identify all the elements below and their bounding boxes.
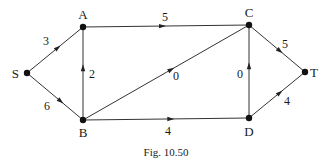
edge-b-d bbox=[83, 118, 249, 120]
edge-weight-a-c: 5 bbox=[162, 10, 168, 24]
node-d bbox=[246, 115, 252, 121]
node-label-c: C bbox=[245, 5, 254, 20]
node-label-b: B bbox=[79, 125, 88, 140]
arrowhead-icon bbox=[247, 62, 251, 69]
node-label-t: T bbox=[310, 65, 318, 80]
edges bbox=[27, 24, 305, 121]
edge-b-c bbox=[83, 25, 249, 120]
node-c bbox=[246, 22, 252, 28]
node-s bbox=[24, 70, 30, 76]
edge-weight-d-c: 0 bbox=[237, 67, 243, 81]
edge-weight-d-t: 4 bbox=[284, 94, 290, 108]
edge-s-a bbox=[27, 27, 83, 73]
arrowhead-icon bbox=[81, 64, 85, 71]
labels: 362504054SABCDT bbox=[12, 5, 318, 140]
edge-weight-s-b: 6 bbox=[44, 99, 50, 113]
edge-weight-b-a: 2 bbox=[89, 67, 95, 81]
edge-weight-c-t: 5 bbox=[282, 37, 288, 51]
node-b bbox=[80, 117, 86, 123]
edge-weight-s-a: 3 bbox=[43, 34, 49, 48]
edge-s-b bbox=[27, 73, 83, 120]
node-label-a: A bbox=[78, 7, 88, 22]
arrowhead-icon bbox=[159, 24, 166, 28]
node-t bbox=[302, 69, 308, 75]
edge-d-t bbox=[249, 72, 305, 118]
edge-weight-b-d: 4 bbox=[165, 124, 171, 138]
node-label-d: D bbox=[244, 124, 253, 139]
edge-c-t bbox=[249, 25, 305, 72]
arrowhead-icon bbox=[167, 117, 174, 121]
figure-caption: Fig. 10.50 bbox=[144, 146, 189, 158]
edge-weight-b-c: 0 bbox=[173, 69, 179, 83]
node-a bbox=[80, 24, 86, 30]
node-label-s: S bbox=[12, 66, 19, 81]
network-diagram: 362504054SABCDT Fig. 10.50 bbox=[0, 0, 332, 164]
